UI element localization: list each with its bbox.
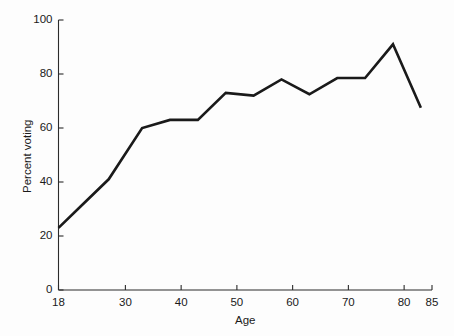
- x-tick-label: 70: [342, 297, 355, 309]
- chart-container: 020406080100 1830405060708085 Percent vo…: [0, 0, 454, 336]
- chart-series-group: [59, 44, 421, 228]
- x-axis-tick-marks: [59, 285, 433, 290]
- x-tick-label: 85: [426, 297, 439, 309]
- chart-plot-area: [0, 0, 454, 336]
- x-tick-label: 80: [398, 297, 411, 309]
- x-tick-label: 60: [286, 297, 299, 309]
- x-tick-label: 18: [52, 297, 65, 309]
- data-line-percent-voting: [59, 44, 421, 228]
- y-tick-label: 20: [40, 230, 53, 242]
- chart-axes: [59, 20, 433, 290]
- y-tick-label: 0: [46, 284, 52, 296]
- y-axis-tick-marks: [59, 20, 64, 290]
- y-tick-label: 60: [40, 122, 53, 134]
- x-axis-title: Age: [235, 315, 255, 327]
- y-tick-label: 40: [40, 176, 53, 188]
- x-tick-label: 40: [175, 297, 188, 309]
- y-axis-title: Percent voting: [22, 119, 34, 193]
- x-tick-label: 30: [119, 297, 132, 309]
- x-tick-label: 50: [230, 297, 243, 309]
- y-tick-label: 80: [40, 68, 53, 80]
- y-tick-label: 100: [33, 14, 52, 26]
